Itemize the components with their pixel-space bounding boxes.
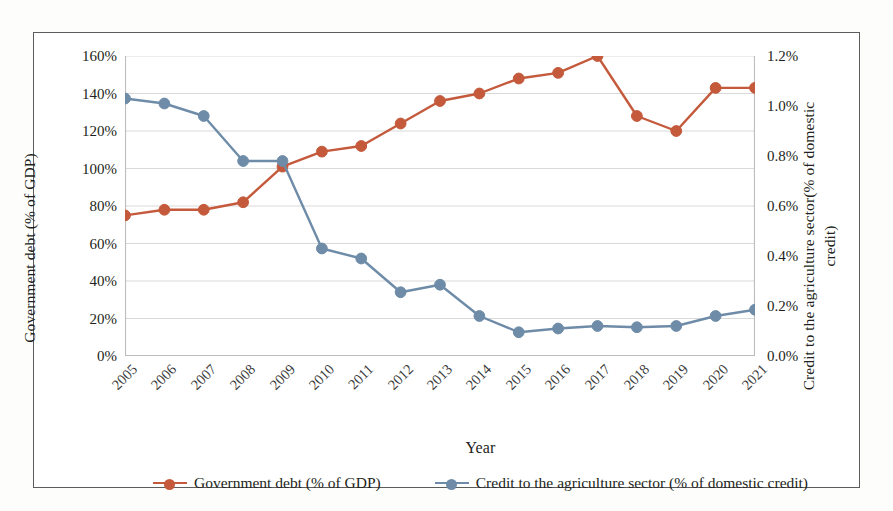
x-tick-label: 2009 [253, 361, 299, 407]
x-tick-label: 2017 [568, 361, 614, 407]
series-marker [238, 197, 249, 208]
x-tick-label: 2014 [449, 361, 495, 407]
series-marker [474, 88, 485, 99]
left-tick-label: 60% [57, 236, 117, 252]
series-marker [671, 126, 682, 137]
x-tick-label: 2006 [134, 361, 180, 407]
x-tick-label: 2020 [686, 361, 732, 407]
legend-item[interactable]: Credit to the agriculture sector (% of d… [435, 474, 808, 492]
right-tick-label: 0.8% [767, 148, 827, 164]
series-marker [125, 93, 130, 104]
x-tick-label: 2013 [410, 361, 456, 407]
series-marker [592, 321, 603, 332]
right-tick-label: 1.0% [767, 98, 827, 114]
x-axis-title: Year [67, 439, 893, 457]
x-tick-label: 2016 [528, 361, 574, 407]
legend-item[interactable]: Government debt (% of GDP) [153, 474, 381, 492]
chart-screenshot: Government debt (% of GDP) Credit to the… [0, 0, 893, 511]
series-marker [631, 322, 642, 333]
x-tick-label: 2021 [725, 361, 771, 407]
series-marker [277, 156, 288, 167]
legend-marker-icon [153, 477, 187, 489]
series-marker [159, 98, 170, 109]
series-marker [553, 67, 564, 78]
right-tick-label: 0.2% [767, 298, 827, 314]
right-tick-label: 0.4% [767, 248, 827, 264]
left-tick-label: 0% [57, 348, 117, 364]
chart-legend: Government debt (% of GDP)Credit to the … [67, 474, 893, 492]
x-tick-label: 2019 [646, 361, 692, 407]
series-marker [631, 111, 642, 122]
series-marker [159, 204, 170, 215]
chart-frame: Government debt (% of GDP) Credit to the… [33, 32, 860, 488]
series-marker [395, 287, 406, 298]
left-tick-label: 80% [57, 198, 117, 214]
series-marker [435, 96, 446, 107]
series-marker [198, 204, 209, 215]
legend-label: Credit to the agriculture sector (% of d… [476, 474, 808, 492]
left-tick-label: 120% [57, 123, 117, 139]
left-tick-label: 160% [57, 48, 117, 64]
x-tick-label: 2007 [174, 361, 220, 407]
series-marker [316, 243, 327, 254]
series-marker [710, 82, 721, 93]
series-marker [238, 156, 249, 167]
x-tick-label: 2015 [489, 361, 535, 407]
series-marker [356, 253, 367, 264]
series-marker [513, 73, 524, 84]
series-marker [435, 279, 446, 290]
series-marker [671, 321, 682, 332]
series-marker [474, 311, 485, 322]
right-tick-label: 0.0% [767, 348, 827, 364]
x-tick-label: 2011 [331, 361, 377, 407]
series-marker [198, 111, 209, 122]
left-tick-label: 20% [57, 311, 117, 327]
left-tick-label: 40% [57, 273, 117, 289]
series-marker [553, 323, 564, 334]
x-tick-label: 2010 [292, 361, 338, 407]
x-tick-label: 2018 [607, 361, 653, 407]
x-tick-label: 2008 [213, 361, 259, 407]
series-marker [750, 304, 755, 315]
plot-area [125, 56, 755, 356]
series-marker [513, 327, 524, 338]
series-marker [750, 82, 755, 93]
left-tick-label: 140% [57, 86, 117, 102]
x-tick-label: 2005 [95, 361, 141, 407]
legend-marker-icon [435, 477, 469, 489]
x-tick-label: 2012 [371, 361, 417, 407]
series-marker [710, 311, 721, 322]
series-marker [125, 210, 130, 221]
left-tick-label: 100% [57, 161, 117, 177]
left-axis-title: Government debt (% of GDP) [20, 83, 40, 413]
series-marker [395, 118, 406, 129]
series-marker [316, 146, 327, 157]
series-marker [356, 141, 367, 152]
right-tick-label: 1.2% [767, 48, 827, 64]
legend-label: Government debt (% of GDP) [194, 474, 381, 492]
series-canvas [125, 56, 755, 356]
right-tick-label: 0.6% [767, 198, 827, 214]
series-line [125, 99, 755, 333]
